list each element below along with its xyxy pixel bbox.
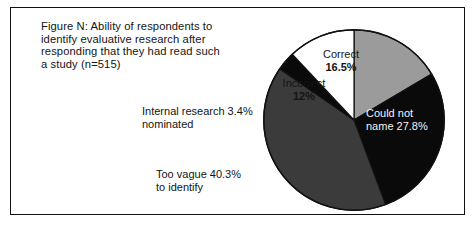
slice-label-too-vague: Too vague 40.3% to identify [156,168,266,193]
figure-title-line-1: Figure N: Ability of respondents to [41,20,246,33]
slice-label-too-vague-line1: Too vague 40.3% [156,168,266,181]
slice-label-internal-research-line2: nominated [142,118,262,131]
slice-label-incorrect-value: 12% [273,90,335,103]
figure-title: Figure N: Ability of respondents to iden… [41,20,246,70]
slice-label-could-not-name-line1: Could not [366,107,428,120]
slice-label-too-vague-line2: to identify [156,181,266,194]
slice-label-could-not-name-line2: name 27.8% [366,120,428,133]
slice-label-internal-research: Internal research 3.4% nominated [142,105,262,130]
slice-label-correct-name: Correct [309,48,373,61]
figure-title-line-2: identify evaluative research after [41,33,246,46]
slice-label-internal-research-line1: Internal research 3.4% [142,105,262,118]
slice-label-could-not-name: Could not name 27.8% [366,107,428,132]
slice-label-correct-value: 16.5% [309,61,373,74]
slice-label-correct: Correct 16.5% [309,48,373,73]
figure-title-line-4: a study (n=515) [41,58,246,71]
slice-label-incorrect-name: Incorrect [273,77,335,90]
figure-title-line-3: responding that they had read such [41,45,246,58]
figure-frame: Figure N: Ability of respondents to iden… [10,7,465,215]
slice-label-incorrect: Incorrect 12% [273,77,335,102]
